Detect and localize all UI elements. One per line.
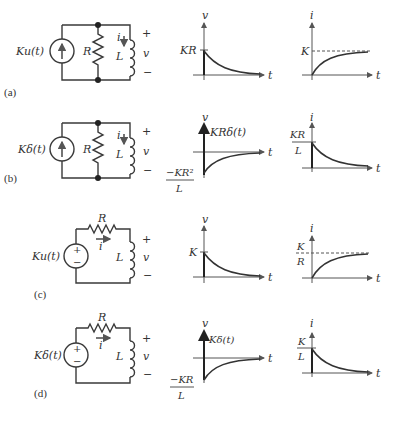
- svg-text:i: i: [310, 9, 314, 22]
- source-label: Kδ(t): [33, 349, 62, 362]
- resistor-label: R: [97, 311, 106, 324]
- inductor-label: L: [115, 251, 123, 264]
- plus-label: +: [142, 27, 151, 40]
- source-plus: +: [73, 343, 81, 354]
- current-label: i: [99, 339, 103, 352]
- i-graph-b: i t KR L: [289, 111, 381, 175]
- svg-text:t: t: [268, 69, 273, 82]
- svg-text:t: t: [376, 272, 381, 285]
- svg-text:i: i: [310, 317, 314, 330]
- inductor-label: L: [115, 50, 123, 63]
- current-label: i: [99, 240, 103, 253]
- inductor-icon: [130, 341, 135, 377]
- source-minus: −: [73, 356, 81, 367]
- i-marker-den: L: [294, 145, 302, 156]
- v-graph-b: v t KRδ(t) −KR² L: [166, 111, 273, 194]
- voltage-label: v: [143, 251, 150, 264]
- resistor-label: R: [82, 143, 91, 156]
- svg-text:v: v: [202, 317, 209, 330]
- i-marker-num: K: [297, 336, 306, 347]
- svg-text:i: i: [310, 111, 314, 124]
- row-label: (a): [4, 86, 17, 99]
- row-label: (b): [4, 172, 17, 185]
- svg-text:t: t: [268, 271, 273, 284]
- row-a: Ku(t) R i L + v − (a) v t KR i t K: [4, 9, 381, 99]
- source-label: Kδ(t): [17, 143, 46, 156]
- v-marker: K: [188, 246, 198, 259]
- row-c: + − R i L + v − Ku(t) (c) v t K: [31, 212, 381, 301]
- minus-label: −: [143, 269, 152, 282]
- i-graph-d: i t K L: [297, 317, 381, 380]
- node-dot: [95, 22, 101, 28]
- voltage-label: v: [143, 350, 150, 363]
- rl-response-figure: Ku(t) R i L + v − (a) v t KR i t K: [0, 0, 402, 422]
- current-label: i: [117, 31, 121, 44]
- svg-text:v: v: [202, 9, 209, 22]
- resistor-icon: [93, 25, 103, 80]
- inductor-icon: [130, 138, 135, 174]
- row-label: (d): [34, 387, 47, 400]
- circuit-d: + − R i L + v − Kδ(t): [33, 311, 152, 383]
- inductor-icon: [130, 242, 135, 278]
- plus-label: +: [142, 332, 151, 345]
- resistor-icon: [93, 123, 103, 178]
- i-marker-den: L: [297, 351, 305, 362]
- impulse-label: KRδ(t): [209, 126, 246, 139]
- v-marker-num: −KR: [170, 374, 194, 385]
- node-dot: [95, 175, 101, 181]
- resistor-label: R: [97, 212, 106, 225]
- i-marker-den: R: [296, 256, 305, 267]
- source-minus: −: [73, 257, 81, 268]
- v-marker-den: L: [175, 183, 183, 194]
- minus-label: −: [143, 66, 152, 79]
- v-graph-c: v t K: [188, 213, 273, 284]
- circuit-a: Ku(t) R i L + v −: [15, 22, 152, 83]
- source-plus: +: [73, 244, 81, 255]
- i-graph-c: i t K R: [296, 222, 381, 285]
- svg-text:t: t: [268, 146, 273, 159]
- i-marker: K: [300, 45, 310, 58]
- voltage-label: v: [143, 47, 150, 60]
- source-label: Ku(t): [31, 250, 60, 263]
- svg-text:t: t: [376, 367, 381, 380]
- minus-label: −: [143, 164, 152, 177]
- svg-text:t: t: [268, 352, 273, 365]
- svg-text:t: t: [376, 162, 381, 175]
- voltage-label: v: [143, 145, 150, 158]
- node-dot: [95, 77, 101, 83]
- plus-label: +: [142, 233, 151, 246]
- svg-text:t: t: [376, 69, 381, 82]
- v-marker-den: L: [177, 390, 185, 401]
- circuit-b: Kδ(t) R i L + v −: [17, 120, 152, 181]
- inductor-label: L: [115, 148, 123, 161]
- v-graph-d: v t Kδ(t) −KR L: [170, 317, 273, 401]
- svg-text:v: v: [202, 111, 209, 124]
- resistor-label: R: [82, 45, 91, 58]
- i-graph-a: i t K: [300, 9, 381, 82]
- row-b: Kδ(t) R i L + v − (b) v t KRδ(t) −KR² L: [4, 111, 381, 194]
- minus-label: −: [143, 368, 152, 381]
- svg-text:v: v: [202, 213, 209, 226]
- impulse-label: Kδ(t): [208, 334, 234, 345]
- v-marker: KR: [179, 44, 197, 57]
- source-label: Ku(t): [15, 45, 44, 58]
- circuit-c: + − R i L + v − Ku(t): [31, 212, 152, 283]
- inductor-label: L: [115, 350, 123, 363]
- row-label: (c): [34, 288, 47, 301]
- v-marker-num: −KR²: [166, 167, 193, 178]
- i-marker-num: KR: [289, 129, 305, 140]
- row-d: + − R i L + v − Kδ(t) (d) v t Kδ(t) −KR …: [33, 311, 381, 401]
- current-label: i: [117, 129, 121, 142]
- v-graph-a: v t KR: [179, 9, 273, 82]
- svg-text:i: i: [310, 222, 314, 235]
- plus-label: +: [142, 125, 151, 138]
- node-dot: [95, 120, 101, 126]
- i-marker-num: K: [296, 241, 305, 252]
- inductor-icon: [130, 40, 135, 76]
